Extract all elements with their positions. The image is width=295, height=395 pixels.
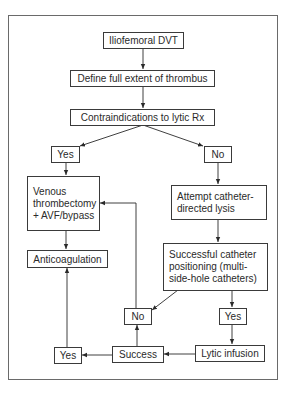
node-define-extent: Define full extent of thrombus — [70, 70, 215, 87]
node-success: Success — [112, 346, 164, 363]
node-yes-top: Yes — [51, 146, 80, 163]
node-iliofemoral-dvt: Iliofemoral DVT — [103, 32, 184, 49]
node-no-middle: No — [124, 308, 152, 325]
node-lytic-infusion: Lytic infusion — [195, 345, 265, 362]
node-no-top: No — [204, 146, 232, 163]
node-attempt-lysis: Attempt catheter- directed lysis — [171, 185, 267, 220]
node-catheter-positioning: Successful catheter positioning (multi- … — [163, 243, 268, 291]
arrow-positioning-no — [152, 290, 178, 310]
node-anticoagulation: Anticoagulation — [27, 250, 108, 268]
node-contraindications: Contraindications to lytic Rx — [70, 109, 215, 126]
arrow-contra-no — [143, 125, 203, 146]
node-yes-bottom: Yes — [54, 347, 82, 364]
node-venous-thrombectomy: Venous thrombectomy + AVF/bypass — [27, 176, 100, 231]
arrow-contra-yes — [80, 125, 143, 146]
node-yes-right: Yes — [219, 308, 247, 325]
